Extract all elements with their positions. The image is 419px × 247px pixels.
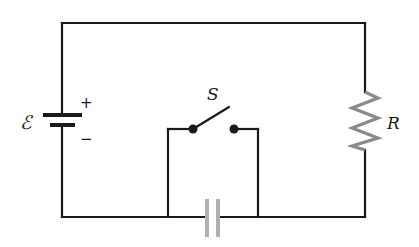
capacitor [207, 199, 218, 237]
switch-lever[interactable] [193, 107, 229, 129]
resistor: R [352, 92, 400, 150]
outer-loop-wires [62, 23, 365, 217]
emf-label: ℰ [20, 111, 34, 133]
battery-minus-sign: − [80, 130, 93, 148]
resistor-zigzag [352, 92, 378, 150]
resistor-label: R [386, 113, 400, 133]
battery: ℰ + − [20, 94, 93, 148]
battery-plus-sign: + [80, 94, 93, 112]
switch-label: S [207, 84, 219, 104]
switch[interactable]: S [189, 84, 239, 134]
circuit-diagram: ℰ + − S R [0, 0, 419, 247]
switch-branch [168, 129, 258, 217]
switch-contact-terminal [230, 125, 239, 134]
